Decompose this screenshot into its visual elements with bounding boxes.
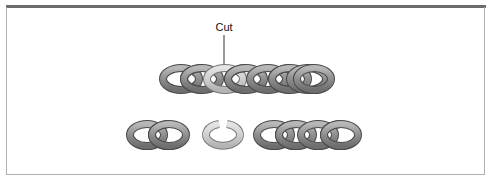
top-bar <box>6 5 486 8</box>
right-chain-piece <box>257 124 358 146</box>
chain-diagram <box>0 0 489 179</box>
left-chain-piece <box>130 124 186 146</box>
cut-label: Cut <box>215 21 232 33</box>
open-cut-link <box>206 124 240 146</box>
diagram-frame: Cut <box>0 0 489 179</box>
top-chain <box>163 68 331 90</box>
